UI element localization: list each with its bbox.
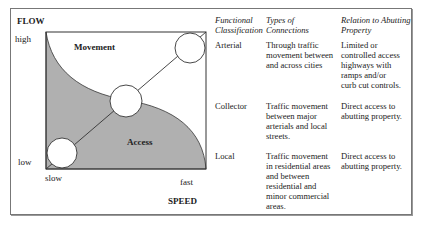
movement-label: Movement <box>74 42 115 52</box>
row-local-connections: Traffic movement in residential areas an… <box>266 151 330 211</box>
local-circle <box>47 138 77 168</box>
row-arterial-connections: Through traffic movement between and acr… <box>266 40 333 70</box>
access-label: Access <box>127 137 153 147</box>
header-connections: Types of Connections <box>266 15 309 35</box>
y-low-label: low <box>18 157 32 167</box>
row-arterial-classification: Arterial <box>215 40 242 50</box>
collector-circle <box>110 85 142 117</box>
header-relation: Relation to Abutting Property <box>341 15 411 35</box>
row-collector-classification: Collector <box>215 101 247 111</box>
row-arterial-relation: Limited or controlled access highways wi… <box>341 40 401 90</box>
row-collector-connections: Traffic movement between major arterials… <box>266 101 328 141</box>
x-axis-title: SPEED <box>168 196 197 206</box>
x-fast-label: fast <box>180 177 193 187</box>
row-local-classification: Local <box>215 151 235 161</box>
header-classification: Functional Classification <box>215 15 263 35</box>
y-axis-title: FLOW <box>17 16 45 26</box>
x-slow-label: slow <box>45 173 62 183</box>
arterial-circle <box>175 33 205 63</box>
row-collector-relation: Direct access to abutting property. <box>341 101 402 121</box>
row-local-relation: Direct access to abutting property. <box>341 151 402 171</box>
y-high-label: high <box>15 34 31 44</box>
